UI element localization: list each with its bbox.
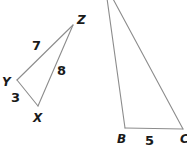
triangles-svg <box>0 0 187 151</box>
segment-xz <box>38 25 73 106</box>
geometry-figure: Z Y X 7 8 3 B C 5 <box>0 0 187 151</box>
segment-bc <box>125 128 183 129</box>
side-length-yz: 7 <box>32 39 41 52</box>
triangle-abc-outline <box>105 0 183 129</box>
vertex-label-x: X <box>33 112 42 124</box>
vertex-label-y: Y <box>2 76 11 88</box>
side-length-bc: 5 <box>145 134 154 147</box>
vertex-label-c: C <box>180 133 187 145</box>
segment-yx <box>17 80 38 106</box>
segment-ab <box>105 0 125 128</box>
side-length-yx: 3 <box>11 91 20 104</box>
vertex-label-z: Z <box>77 14 86 26</box>
side-length-xz: 8 <box>57 64 66 77</box>
vertex-label-b: B <box>117 133 126 145</box>
